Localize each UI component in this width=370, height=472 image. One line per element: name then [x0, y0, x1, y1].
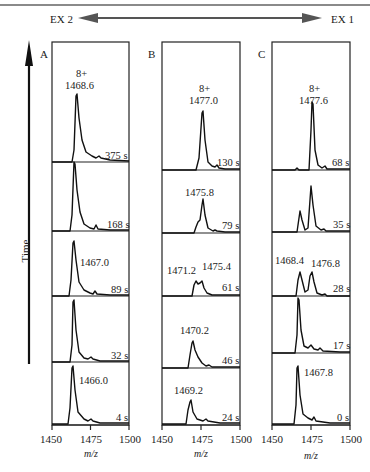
panel-b-peak-row5: 1469.2 [174, 386, 203, 397]
double-arrow-icon [78, 13, 322, 23]
panel-b-xtick-1450: 1450 [151, 433, 173, 445]
panel-c-charge-label: 8+ [309, 84, 320, 95]
panel-c-time-4: 17 s [333, 341, 350, 352]
panel-b-time-1: 130 s [217, 158, 239, 169]
panel-c-peak-row5: 1467.8 [304, 368, 333, 379]
panel-b-xtick-1500: 1500 [230, 433, 252, 445]
panel-c-xtick-1500: 1500 [340, 433, 362, 445]
time-arrow-icon [25, 40, 33, 364]
panel-a-xtick-1500: 1500 [119, 433, 141, 445]
panel-c-time-2: 35 s [333, 220, 350, 231]
panel-b-label: B [148, 48, 155, 60]
panel-c-time-5: 0 s [337, 413, 349, 424]
panel-b-time-5: 24 s [222, 413, 239, 424]
panel-a-peak-row3: 1467.0 [80, 258, 109, 269]
panel-a-time-2: 168 s [107, 220, 129, 231]
panel-b-xtick-1475: 1475 [191, 433, 213, 445]
panel-c-peak-row3a: 1468.4 [275, 256, 304, 267]
panel-a-peak-row5: 1466.0 [79, 376, 108, 387]
panel-c-xtick-1450: 1450 [261, 433, 283, 445]
panel-b-peak-row3a: 1471.2 [167, 266, 196, 277]
panel-b-peak-row4: 1470.2 [180, 326, 209, 337]
panel-c-time-3: 28 s [333, 284, 350, 295]
panel-c-peak-row3b: 1476.8 [311, 259, 340, 270]
panel-a-xlabel: m/z [84, 448, 98, 459]
panel-c-label: C [258, 48, 265, 60]
panel-b-charge-label: 8+ [199, 84, 210, 95]
panel-a-xtick-1475: 1475 [80, 433, 102, 445]
panel-b-peak-top: 1477.0 [189, 96, 218, 107]
panel-a-time-5: 4 s [116, 413, 128, 424]
panel-c-peak-top: 1477.6 [299, 96, 328, 107]
panel-b-xlabel: m/z [194, 448, 208, 459]
panel-b-time-3: 61 s [222, 283, 239, 294]
panel-a-peak-top: 1468.6 [65, 81, 94, 92]
panel-a-label: A [40, 48, 48, 60]
panel-c-xlabel: m/z [304, 450, 318, 461]
panel-a-charge-label: 8+ [76, 69, 87, 80]
panel-a-xtick-1450: 1450 [40, 433, 62, 445]
figure-graphics [0, 0, 370, 472]
panel-a-time-4: 32 s [111, 351, 128, 362]
time-axis-label: Time [19, 231, 31, 271]
panel-c-xtick-1475: 1475 [301, 433, 323, 445]
panel-a-time-1: 375 s [105, 151, 127, 162]
panel-b-peak-row2: 1475.8 [185, 188, 214, 199]
panel-a-time-3: 89 s [111, 285, 128, 296]
panel-b-peak-row3b: 1475.4 [202, 262, 231, 273]
panel-b-time-4: 46 s [222, 356, 239, 367]
panel-c-time-1: 68 s [332, 158, 349, 169]
panel-a-frame [52, 42, 129, 430]
panel-b-time-2: 79 s [222, 221, 239, 232]
